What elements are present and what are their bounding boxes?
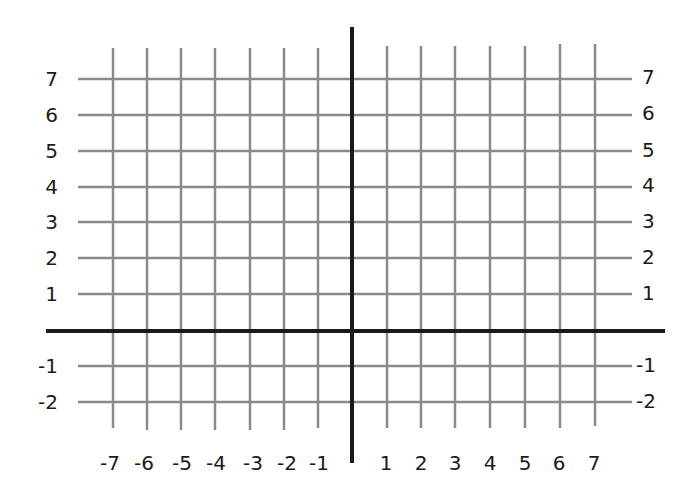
x-label: -1 (299, 453, 339, 473)
y-label-left: 5 (18, 141, 58, 161)
y-label-left: 7 (18, 69, 58, 89)
x-label: 1 (366, 453, 406, 473)
y-label-left: 1 (18, 284, 58, 304)
coordinate-grid (0, 0, 699, 500)
x-label: -4 (196, 453, 236, 473)
x-label: 3 (435, 453, 475, 473)
x-label: 4 (470, 453, 510, 473)
y-label-left: 4 (18, 177, 58, 197)
horizontal-gridlines (78, 79, 632, 402)
axes (46, 27, 665, 463)
y-label-left: -1 (18, 356, 58, 376)
y-label-right: 6 (642, 103, 655, 123)
y-label-right: 4 (642, 175, 655, 195)
y-label-right: 5 (642, 140, 655, 160)
y-label-right: 1 (642, 283, 655, 303)
y-label-right: 3 (642, 211, 655, 231)
y-label-left: -2 (18, 392, 58, 412)
y-label-left: 6 (18, 105, 58, 125)
x-label: 7 (574, 453, 614, 473)
y-label-right: 7 (642, 67, 655, 87)
y-label-right: 2 (642, 247, 655, 267)
y-label-right: -2 (636, 391, 656, 411)
x-label: 6 (539, 453, 579, 473)
y-label-left: 2 (18, 248, 58, 268)
y-label-left: 3 (18, 212, 58, 232)
x-label: -6 (124, 453, 164, 473)
y-label-right: -1 (636, 355, 656, 375)
